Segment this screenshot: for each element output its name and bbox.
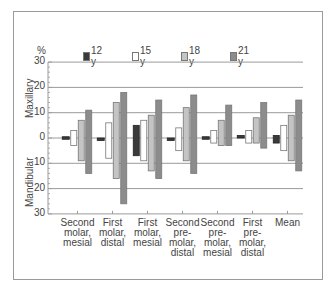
range-bar-18y: [183, 108, 189, 161]
range-bar-15y: [246, 130, 252, 143]
range-bar-21y: [226, 105, 232, 145]
range-bar-18y: [78, 120, 84, 160]
range-bar-12y: [97, 138, 104, 141]
range-bar-21y: [86, 110, 92, 173]
range-bar-21y: [156, 100, 162, 178]
range-bar-18y: [288, 115, 294, 161]
range-bar-12y: [133, 125, 139, 155]
plot-area: [0, 0, 329, 291]
range-bar-18y: [113, 103, 119, 179]
range-bar-18y: [253, 118, 259, 143]
range-bar-18y: [218, 120, 224, 145]
range-bar-21y: [296, 100, 302, 171]
range-bar-15y: [211, 130, 217, 143]
range-bar-12y: [273, 135, 279, 143]
range-bar-12y: [167, 138, 174, 141]
range-bar-12y: [202, 137, 209, 140]
range-bar-15y: [141, 120, 147, 160]
range-bar-21y: [261, 103, 267, 149]
range-bar-15y: [281, 125, 287, 150]
range-bar-15y: [176, 128, 182, 151]
range-bar-21y: [121, 92, 127, 203]
range-bar-18y: [148, 115, 154, 171]
range-bar-21y: [191, 95, 197, 173]
range-bar-15y: [71, 130, 77, 145]
range-bar-12y: [237, 135, 244, 138]
range-bar-12y: [62, 137, 69, 140]
range-bar-15y: [106, 123, 112, 158]
